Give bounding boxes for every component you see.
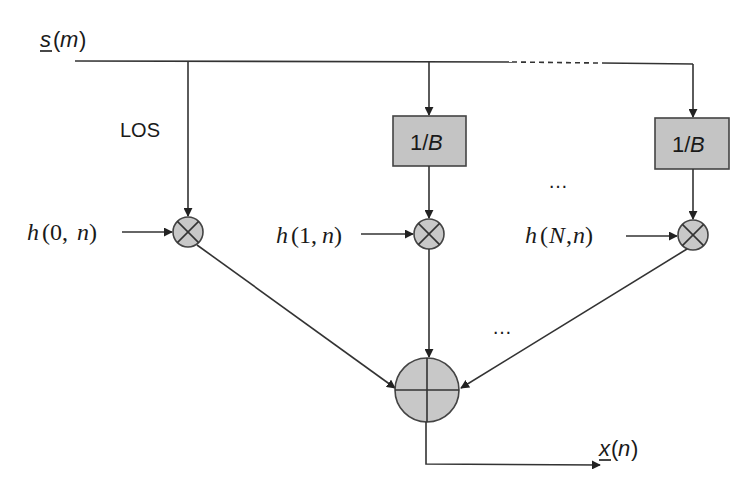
svg-text:n: n (322, 222, 334, 248)
output-line (426, 422, 600, 465)
input-var: s (40, 27, 51, 52)
svg-text:): ) (631, 436, 638, 461)
input-bus (75, 61, 512, 62)
svg-text:h: h (276, 222, 288, 248)
svg-text:h: h (525, 222, 537, 248)
svg-text:n: n (573, 222, 585, 248)
svg-text:B: B (428, 130, 443, 155)
block-diagram: s ( m ) LOS 1/ B 1/ B … h (0, n ) h (1, … (0, 0, 751, 490)
output-label: x ( n ) (598, 436, 638, 461)
svg-text:x: x (598, 436, 611, 461)
input-arg-close: ) (79, 27, 86, 52)
los-label: LOS (120, 119, 160, 141)
multiplier-0 (173, 217, 203, 247)
gain-box-1: 1/ B (393, 116, 466, 166)
multiplier-N (678, 220, 708, 250)
input-bus-end (602, 63, 693, 64)
ellipsis-sums: … (492, 316, 512, 338)
ellipsis-boxes: … (548, 170, 568, 192)
input-label: s ( m ) (40, 27, 86, 52)
svg-text:N: N (548, 222, 567, 248)
gain-box-N: 1/ B (655, 118, 729, 169)
svg-text:(1,: (1, (291, 222, 317, 248)
svg-text:): ) (585, 222, 593, 248)
adder-node (395, 358, 459, 422)
svg-text:): ) (334, 222, 342, 248)
coef-label-N: h ( N , n ) (525, 222, 593, 248)
svg-text:,: , (566, 222, 572, 248)
svg-text:h: h (27, 219, 39, 245)
mult-0-to-adder (197, 245, 395, 388)
input-bus-dashed (512, 62, 598, 63)
input-arg-var: m (60, 27, 78, 52)
svg-text:(0,: (0, (42, 219, 68, 245)
svg-text:(: ( (540, 222, 548, 248)
svg-text:1/: 1/ (410, 130, 429, 155)
svg-text:n: n (618, 436, 630, 461)
svg-text:n: n (77, 219, 89, 245)
svg-text:B: B (690, 132, 705, 157)
multiplier-1 (414, 219, 444, 249)
coef-label-0: h (0, n ) (27, 219, 97, 245)
coef-label-1: h (1, n ) (276, 222, 342, 248)
svg-text:1/: 1/ (672, 132, 691, 157)
svg-text:): ) (89, 219, 97, 245)
